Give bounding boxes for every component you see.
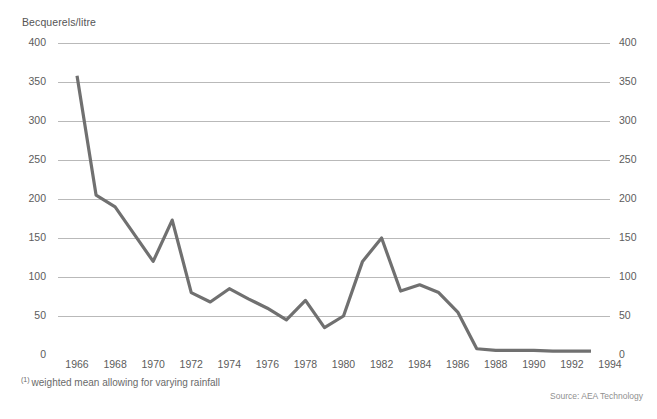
x-axis-tick-label: 1980 bbox=[332, 358, 355, 370]
y-axis-tick-label: 100 bbox=[619, 270, 637, 282]
line-chart-svg bbox=[58, 43, 610, 355]
x-axis-tick-label: 1972 bbox=[180, 358, 203, 370]
x-axis-tick-label: 1990 bbox=[522, 358, 545, 370]
chart-container: Becquerels/litre 05010015020025030035040… bbox=[0, 0, 657, 419]
x-axis-tick-label: 1968 bbox=[103, 358, 126, 370]
footnote-marker: (1) bbox=[21, 376, 30, 383]
data-series-line bbox=[77, 76, 591, 351]
y-axis-tick-label: 250 bbox=[0, 153, 46, 165]
x-axis-tick-label: 1994 bbox=[598, 358, 621, 370]
y-axis-tick-label: 150 bbox=[619, 231, 637, 243]
x-axis-labels: 1966196819701972197419761978198019821984… bbox=[0, 358, 657, 376]
x-axis-tick-label: 1984 bbox=[408, 358, 431, 370]
y-axis-labels-left: 050100150200250300350400 bbox=[0, 43, 46, 355]
x-axis-tick-label: 1988 bbox=[484, 358, 507, 370]
x-axis-tick-label: 1976 bbox=[256, 358, 279, 370]
gridlines bbox=[58, 43, 610, 355]
source-credit: Source: AEA Technology bbox=[550, 391, 643, 401]
y-axis-tick-label: 200 bbox=[619, 192, 637, 204]
footnote-text: weighted mean allowing for varying rainf… bbox=[32, 377, 220, 388]
footnote: (1)weighted mean allowing for varying ra… bbox=[21, 376, 220, 388]
y-axis-tick-label: 350 bbox=[0, 75, 46, 87]
y-axis-tick-label: 50 bbox=[619, 309, 631, 321]
y-axis-tick-label: 200 bbox=[0, 192, 46, 204]
x-axis-tick-label: 1982 bbox=[370, 358, 393, 370]
y-axis-tick-label: 100 bbox=[0, 270, 46, 282]
y-axis-tick-label: 400 bbox=[619, 36, 637, 48]
y-axis-tick-label: 250 bbox=[619, 153, 637, 165]
x-axis-tick-label: 1978 bbox=[294, 358, 317, 370]
x-axis-tick-label: 1966 bbox=[65, 358, 88, 370]
y-axis-labels-right: 050100150200250300350400 bbox=[619, 43, 657, 355]
x-axis-tick-label: 1992 bbox=[560, 358, 583, 370]
y-axis-tick-label: 50 bbox=[0, 309, 46, 321]
y-axis-tick-label: 400 bbox=[0, 36, 46, 48]
x-axis-tick-label: 1974 bbox=[218, 358, 241, 370]
y-axis-tick-label: 300 bbox=[0, 114, 46, 126]
x-axis-tick-label: 1970 bbox=[141, 358, 164, 370]
y-axis-tick-label: 300 bbox=[619, 114, 637, 126]
y-axis-title: Becquerels/litre bbox=[22, 16, 96, 28]
y-axis-tick-label: 150 bbox=[0, 231, 46, 243]
x-axis-tick-label: 1986 bbox=[446, 358, 469, 370]
plot-area bbox=[58, 43, 610, 355]
y-axis-tick-label: 350 bbox=[619, 75, 637, 87]
